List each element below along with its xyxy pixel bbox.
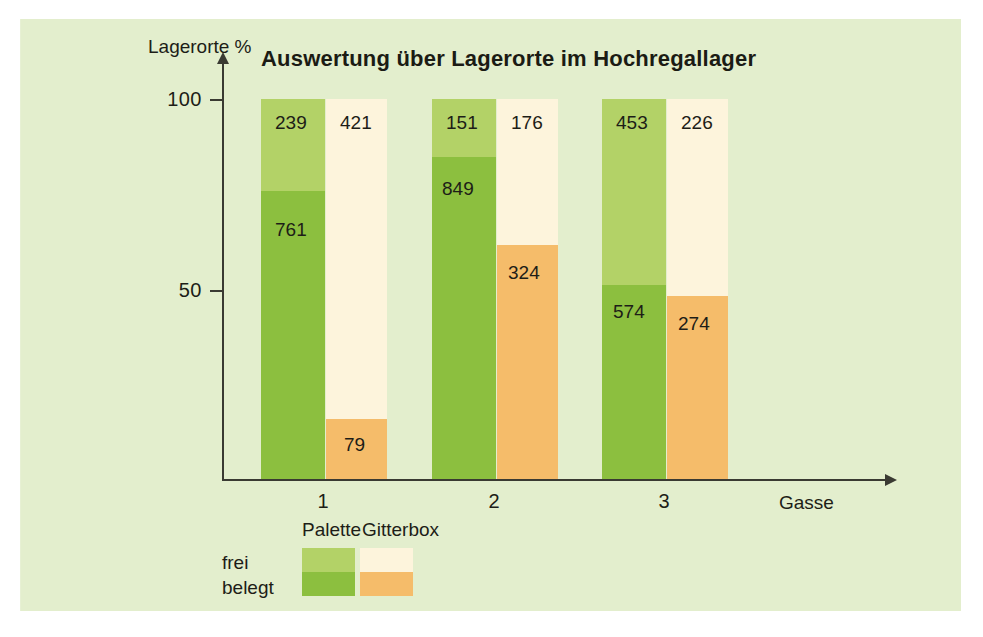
y-tick-label-50: 50: [146, 279, 202, 302]
legend-row-label-frei: frei: [222, 552, 248, 574]
x-axis-arrow-icon: [885, 474, 897, 486]
bar-label-gasse2-palette-frei: 151: [446, 112, 478, 134]
legend-swatch-gitterbox-belegt[interactable]: [360, 572, 413, 596]
bar-label-gasse1-gitterbox-frei: 421: [340, 112, 372, 134]
x-axis-line: [222, 479, 887, 481]
legend-row-label-belegt: belegt: [222, 577, 274, 599]
legend-header-palette: Palette: [302, 519, 361, 541]
bar-label-gasse3-palette-frei: 453: [616, 112, 648, 134]
bar-label-gasse3-gitterbox-belegt: 274: [678, 313, 710, 335]
legend-swatch-palette-belegt[interactable]: [302, 572, 355, 596]
x-tick-label-3: 3: [644, 490, 684, 513]
y-tick-100: [210, 99, 222, 101]
bar-label-gasse3-gitterbox-frei: 226: [681, 112, 713, 134]
bar-gasse2-palette-belegt[interactable]: [432, 157, 496, 479]
bar-gasse1-gitterbox-frei[interactable]: [326, 99, 387, 419]
chart-page: 100 50 Lagerorte % 1 2 3 Gasse Auswertun…: [0, 0, 983, 637]
bar-label-gasse1-gitterbox-belegt: 79: [344, 434, 365, 456]
legend-header-gitterbox: Gitterbox: [362, 519, 439, 541]
legend-swatch-palette-frei[interactable]: [302, 548, 355, 572]
bar-label-gasse1-palette-frei: 239: [275, 112, 307, 134]
y-tick-50: [210, 290, 222, 292]
legend-swatch-gitterbox-frei[interactable]: [360, 548, 413, 572]
bar-label-gasse2-palette-belegt: 849: [442, 178, 474, 200]
x-axis-title: Gasse: [779, 492, 834, 514]
bar-label-gasse3-palette-belegt: 574: [613, 301, 645, 323]
y-axis-title: Lagerorte %: [148, 36, 252, 58]
y-tick-label-100: 100: [146, 88, 202, 111]
bar-label-gasse2-gitterbox-frei: 176: [511, 112, 543, 134]
bar-label-gasse1-palette-belegt: 761: [275, 219, 307, 241]
x-tick-label-2: 2: [474, 490, 514, 513]
x-tick-label-1: 1: [303, 490, 343, 513]
chart-title: Auswertung über Lagerorte im Hochregalla…: [261, 46, 756, 72]
y-axis-line: [222, 62, 224, 481]
bar-label-gasse2-gitterbox-belegt: 324: [508, 262, 540, 284]
